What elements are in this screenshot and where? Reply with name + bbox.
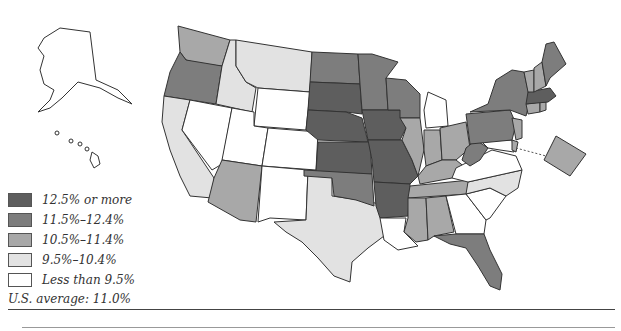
legend-swatch-c1 xyxy=(8,253,32,267)
state-ri xyxy=(540,102,546,112)
state-hi xyxy=(90,152,100,168)
legend-label: 10.5%–11.4% xyxy=(42,233,124,247)
state-ne xyxy=(306,110,368,142)
state-mi xyxy=(424,92,448,128)
legend-label: Less than 9.5% xyxy=(42,273,135,287)
legend-label: 12.5% or more xyxy=(42,193,132,207)
state-ak xyxy=(38,28,132,112)
legend-item: 10.5%–11.4% xyxy=(8,230,178,250)
map-legend: 12.5% or more 11.5%–12.4% 10.5%–11.4% 9.… xyxy=(8,190,178,290)
state-ar xyxy=(374,182,410,218)
legend-label: 9.5%–10.4% xyxy=(42,253,117,267)
state-hi-island xyxy=(85,147,89,151)
state-az xyxy=(208,160,262,222)
state-hi-island xyxy=(55,131,59,135)
state-ny xyxy=(470,70,530,116)
legend-swatch-c0 xyxy=(8,273,32,287)
state-nm xyxy=(258,166,308,222)
state-ks xyxy=(316,142,372,174)
state-hi-island xyxy=(78,142,82,146)
state-dc-inset xyxy=(544,136,586,176)
legend-swatch-c2 xyxy=(8,233,32,247)
divider-rule xyxy=(8,309,615,310)
state-nd xyxy=(310,52,360,84)
legend-item: 11.5%–12.4% xyxy=(8,210,178,230)
legend-item: 9.5%–10.4% xyxy=(8,250,178,270)
state-nj xyxy=(512,118,522,140)
state-fl xyxy=(434,234,502,290)
state-de xyxy=(512,140,518,152)
state-pa xyxy=(466,110,516,144)
state-hi-island xyxy=(69,139,73,143)
state-me xyxy=(542,42,566,86)
us-average-note: U.S. average: 11.0% xyxy=(8,292,131,306)
dc-leader-line xyxy=(516,148,546,156)
legend-item: Less than 9.5% xyxy=(8,270,178,290)
legend-label: 11.5%–12.4% xyxy=(42,213,124,227)
state-ms xyxy=(404,198,428,242)
state-co xyxy=(262,128,318,170)
state-sd xyxy=(308,82,362,114)
state-wy xyxy=(254,88,310,130)
divider-rule xyxy=(22,327,615,328)
legend-swatch-c3 xyxy=(8,213,32,227)
state-ia xyxy=(362,110,406,140)
legend-swatch-c4 xyxy=(8,193,32,207)
legend-item: 12.5% or more xyxy=(8,190,178,210)
